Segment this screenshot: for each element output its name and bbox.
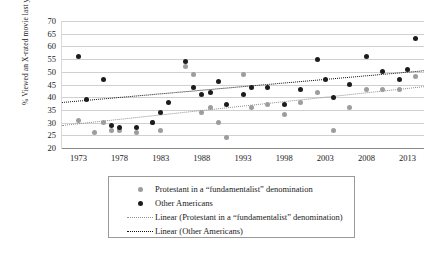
data-point xyxy=(208,105,213,110)
x-tick-label: 2008 xyxy=(346,154,386,163)
data-point xyxy=(101,77,106,82)
data-point xyxy=(282,112,287,117)
x-tick-label: 2003 xyxy=(305,154,345,163)
y-tick-label: 70 xyxy=(32,17,56,25)
y-tick-label: 20 xyxy=(32,144,56,152)
data-point xyxy=(183,59,188,64)
data-point xyxy=(397,77,402,82)
data-point xyxy=(208,90,213,95)
y-tick-label: 50 xyxy=(32,68,56,76)
data-point xyxy=(134,130,139,135)
legend-label: Linear (Other Americans) xyxy=(155,226,243,236)
x-tick-label: 1998 xyxy=(264,154,304,163)
gridline xyxy=(62,123,424,124)
x-tick-label: 2013 xyxy=(388,154,428,163)
y-tick-label: 40 xyxy=(32,93,56,101)
data-point xyxy=(298,87,303,92)
data-point xyxy=(101,120,106,125)
data-point xyxy=(249,105,254,110)
y-tick-label: 35 xyxy=(32,106,56,114)
data-point xyxy=(282,102,287,107)
data-point xyxy=(323,77,328,82)
data-point xyxy=(405,67,410,72)
gridline xyxy=(62,34,424,35)
y-tick-label: 60 xyxy=(32,42,56,50)
y-axis-title: % Viewed an X-rated movie last year xyxy=(21,0,31,117)
legend-label: Other Americans xyxy=(155,198,213,208)
y-tick-label: 65 xyxy=(32,30,56,38)
data-point xyxy=(216,120,221,125)
data-point xyxy=(166,100,171,105)
legend-label: Linear (Protestant in a “fundamentalist”… xyxy=(155,212,343,222)
data-point xyxy=(76,118,81,123)
data-point xyxy=(241,92,246,97)
legend-line-icon xyxy=(127,217,153,218)
data-point xyxy=(224,135,229,140)
data-point xyxy=(76,54,81,59)
x-tick-label: 1973 xyxy=(58,154,98,163)
data-point xyxy=(134,125,139,130)
gridline xyxy=(62,135,424,136)
y-tick-label: 45 xyxy=(32,81,56,89)
data-point xyxy=(397,87,402,92)
gridline xyxy=(62,59,424,60)
legend-item: Other Americans xyxy=(109,196,354,210)
x-tick-label: 1993 xyxy=(223,154,263,163)
legend-dot-icon xyxy=(138,187,143,192)
legend-item: Linear (Protestant in a “fundamentalist”… xyxy=(109,210,354,224)
data-point xyxy=(265,85,270,90)
data-point xyxy=(241,72,246,77)
data-point xyxy=(298,100,303,105)
gridline xyxy=(62,21,424,22)
chart-figure: % Viewed an X-rated movie last year 2025… xyxy=(0,0,434,255)
gridline xyxy=(62,46,424,47)
data-point xyxy=(191,85,196,90)
data-point xyxy=(331,95,336,100)
data-point xyxy=(315,57,320,62)
data-point xyxy=(315,90,320,95)
data-point xyxy=(109,123,114,128)
legend-item: Protestant in a “fundamentalist” denomin… xyxy=(109,182,354,196)
legend-key xyxy=(125,217,155,218)
legend-dot-icon xyxy=(138,201,143,206)
legend-key xyxy=(125,201,155,206)
data-point xyxy=(331,128,336,133)
data-point xyxy=(413,74,418,79)
x-tick-label: 1983 xyxy=(141,154,181,163)
y-tick-label: 55 xyxy=(32,55,56,63)
plot-area: 2025303540455055606570 19731978198319881… xyxy=(62,21,424,148)
data-point xyxy=(265,102,270,107)
legend-label: Protestant in a “fundamentalist” denomin… xyxy=(155,184,313,194)
legend-key xyxy=(125,187,155,192)
data-point xyxy=(109,128,114,133)
data-point xyxy=(183,64,188,69)
y-tick-label: 30 xyxy=(32,119,56,127)
data-point xyxy=(158,128,163,133)
data-point xyxy=(84,97,89,102)
y-tick-label: 25 xyxy=(32,131,56,139)
data-point xyxy=(249,85,254,90)
x-axis-line xyxy=(62,148,424,149)
gridline xyxy=(62,110,424,111)
data-point xyxy=(413,36,418,41)
chart-legend: Protestant in a “fundamentalist” denomin… xyxy=(108,176,355,238)
data-point xyxy=(191,72,196,77)
legend-item: Linear (Other Americans) xyxy=(109,224,354,238)
x-tick-label: 1978 xyxy=(100,154,140,163)
data-point xyxy=(364,87,369,92)
data-point xyxy=(364,54,369,59)
data-point xyxy=(150,120,155,125)
x-tick-label: 1988 xyxy=(182,154,222,163)
data-point xyxy=(347,82,352,87)
legend-key xyxy=(125,231,155,232)
data-point xyxy=(199,110,204,115)
legend-line-icon xyxy=(127,231,153,232)
